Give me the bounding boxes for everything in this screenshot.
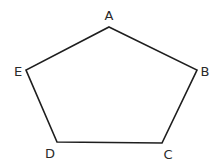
pentagon-diagram: A B C D E [0,0,217,164]
vertex-label-e: E [14,64,22,79]
vertex-label-a: A [105,8,114,23]
vertex-label-c: C [163,147,172,162]
vertex-label-d: D [45,146,55,161]
vertex-label-b: B [201,64,210,79]
pentagon-outline [26,27,197,143]
